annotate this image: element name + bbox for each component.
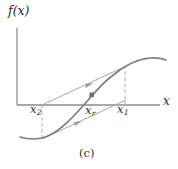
x1-label: x1 (117, 104, 129, 117)
x1-label-base: x (117, 102, 124, 116)
lower-secant-arrowhead (74, 121, 82, 126)
y-axis-label: f(x) (8, 5, 29, 18)
x2-label-base: x (30, 102, 37, 116)
x2-label-subscript: 2 (37, 108, 42, 117)
x1-label-subscript: 1 (124, 108, 129, 117)
root-estimate-marker (90, 93, 95, 98)
upper-secant-line (42, 66, 126, 105)
function-curve (20, 58, 166, 139)
xr-label-subscript: r (92, 109, 96, 118)
xr-label: xr (85, 105, 95, 118)
upper-secant-arrowhead (85, 83, 93, 88)
x-axis-label: x (163, 95, 170, 107)
false-position-figure: f(x) x x2 xr x1 (c) (0, 0, 178, 169)
figure-canvas (0, 0, 178, 169)
panel-caption: (c) (79, 148, 94, 160)
xr-label-base: x (85, 103, 92, 117)
x2-label: x2 (30, 104, 42, 117)
